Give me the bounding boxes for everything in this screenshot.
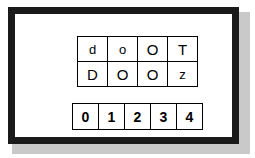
- letter-cell-0-0: d: [78, 37, 108, 62]
- letter-cell-1-0: D: [78, 62, 108, 87]
- number-cell-0-3: 3: [151, 104, 177, 130]
- number-cell-0-4: 4: [177, 104, 203, 130]
- number-cell-0-1: 1: [99, 104, 125, 130]
- letter-cell-0-1: o: [108, 37, 138, 62]
- figure-canvas: d o O T D O O z 0: [0, 0, 255, 158]
- frame-interior: d o O T D O O z 0: [15, 14, 232, 137]
- letter-cell-1-3: z: [168, 62, 198, 87]
- outer-frame: d o O T D O O z 0: [8, 7, 239, 144]
- number-cell-0-0: 0: [73, 104, 99, 130]
- letter-cell-0-3: T: [168, 37, 198, 62]
- number-grid-row: 0 1 2 3 4: [73, 104, 203, 130]
- letter-cell-1-1: O: [108, 62, 138, 87]
- letter-grid-row: d o O T: [78, 37, 198, 62]
- letter-cell-0-2: O: [138, 37, 168, 62]
- letter-grid: d o O T D O O z: [77, 36, 198, 87]
- number-cell-0-2: 2: [125, 104, 151, 130]
- number-grid: 0 1 2 3 4: [72, 103, 203, 130]
- letter-grid-row: D O O z: [78, 62, 198, 87]
- letter-cell-1-2: O: [138, 62, 168, 87]
